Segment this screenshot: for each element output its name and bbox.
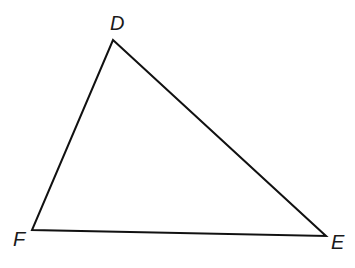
triangle-diagram: D E F [0, 0, 355, 268]
triangle-DEF [32, 40, 326, 236]
vertex-label-e: E [331, 231, 345, 253]
vertex-label-f: F [13, 228, 27, 250]
vertex-label-d: D [110, 12, 124, 34]
